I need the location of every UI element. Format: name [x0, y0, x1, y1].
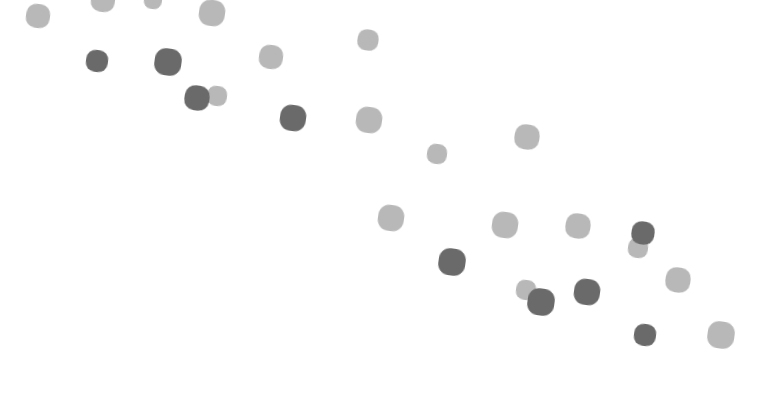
data-point-dark — [278, 103, 307, 132]
data-point-dark — [633, 323, 658, 348]
data-point-dark — [630, 220, 656, 246]
data-point-light — [376, 203, 405, 232]
data-point-light — [89, 0, 116, 14]
data-point-light — [354, 105, 383, 134]
data-point-light — [490, 210, 519, 239]
data-point-light — [257, 43, 284, 70]
data-point-light — [356, 28, 380, 52]
data-point-light — [143, 0, 163, 10]
data-point-light — [664, 266, 692, 294]
data-point-dark — [183, 84, 211, 112]
data-point-light — [197, 0, 226, 28]
data-point-light — [564, 212, 592, 240]
data-point-dark — [572, 277, 601, 306]
data-point-dark — [437, 247, 467, 277]
data-point-dark — [85, 49, 110, 74]
data-point-dark — [153, 47, 183, 77]
scatter-plot-area — [0, 0, 765, 395]
data-point-dark — [526, 287, 556, 317]
data-point-light — [706, 320, 736, 350]
data-point-light — [426, 143, 449, 166]
data-point-light — [513, 123, 541, 151]
data-point-light — [24, 2, 51, 29]
